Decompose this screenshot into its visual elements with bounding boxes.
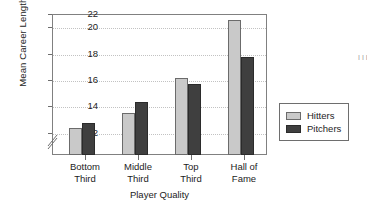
x-tick-mark-3 bbox=[191, 155, 192, 160]
legend-label-pitchers: Pitchers bbox=[307, 123, 341, 134]
x-tick-mark-2 bbox=[138, 155, 139, 160]
bar-pitchers-top-third bbox=[188, 84, 201, 155]
x-category-line2: Fame bbox=[207, 173, 281, 185]
legend-label-hitters: Hitters bbox=[307, 110, 334, 121]
x-axis-title: Player Quality bbox=[52, 189, 267, 200]
bars-layer bbox=[52, 14, 267, 155]
bar-hitters-top-third bbox=[175, 78, 188, 155]
bar-hitters-bottom-third bbox=[69, 128, 82, 155]
bar-hitters-hall-of-fame bbox=[228, 20, 241, 155]
legend-item-hitters: Hitters bbox=[286, 109, 341, 122]
bar-chart: Mean Career Length in Years 22 20 18 16 … bbox=[0, 0, 367, 212]
y-axis-title: Mean Career Length in Years bbox=[17, 0, 28, 94]
bar-hitters-middle-third bbox=[122, 113, 135, 155]
bar-group-top-third bbox=[168, 14, 211, 155]
x-category-line1: Middle bbox=[124, 161, 152, 172]
bar-pitchers-bottom-third bbox=[82, 123, 95, 156]
chart-legend: Hitters Pitchers bbox=[279, 103, 349, 141]
bar-pitchers-hall-of-fame bbox=[241, 57, 254, 155]
legend-item-pitchers: Pitchers bbox=[286, 122, 341, 135]
x-category-line1: Top bbox=[183, 161, 198, 172]
legend-swatch-pitchers bbox=[286, 125, 301, 133]
x-tick-mark-1 bbox=[85, 155, 86, 160]
x-tick-mark-4 bbox=[244, 155, 245, 160]
x-category-line1: Hall of bbox=[231, 161, 258, 172]
bar-pitchers-middle-third bbox=[135, 102, 148, 155]
bar-group-middle-third bbox=[115, 14, 158, 155]
cropped-margin-text: I I I I I I I I I bbox=[358, 52, 367, 210]
x-category-line1: Bottom bbox=[70, 161, 100, 172]
x-category-label-hall-of-fame: Hall of Fame bbox=[207, 161, 281, 184]
legend-swatch-hitters bbox=[286, 112, 301, 120]
bar-group-hall-of-fame bbox=[221, 14, 264, 155]
bar-group-bottom-third bbox=[62, 14, 105, 155]
